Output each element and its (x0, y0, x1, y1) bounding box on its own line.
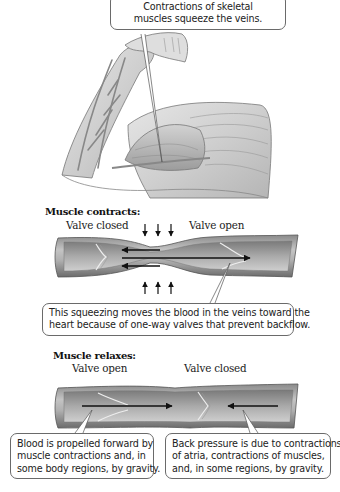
relax-valve-left-label: Valve open (72, 362, 127, 374)
relax-left-callout-line-3: some body regions, by gravity. (17, 463, 147, 475)
contract-callout-line-2: heart because of one-way valves that pre… (49, 319, 287, 331)
squeeze-arrows-up (145, 282, 171, 294)
relax-right-callout-line-2: of atria, contractions of muscles, (172, 450, 324, 462)
vein-diagram-illustration (0, 0, 340, 492)
relax-right-callout-line-3: and, in some regions, by gravity. (172, 463, 324, 475)
contract-valve-right-label: Valve open (189, 219, 244, 231)
contract-heading: Muscle contracts: (45, 206, 140, 217)
relax-right-callout: Back pressure is due to contractions of … (165, 433, 331, 479)
top-callout: Contractions of skeletal muscles squeeze… (110, 0, 286, 30)
contract-callout: This squeezing moves the blood in the ve… (42, 303, 294, 336)
relax-left-callout: Blood is propelled forward by muscle con… (10, 433, 154, 479)
vein-relaxed (55, 384, 298, 428)
contract-valve-left-label: Valve closed (66, 219, 129, 231)
relax-valve-right-label: Valve closed (184, 362, 247, 374)
relax-left-callout-line-2: muscle contractions and, in (17, 450, 147, 462)
contract-callout-line-1: This squeezing moves the blood in the ve… (49, 307, 287, 319)
vein-contracted (55, 235, 298, 277)
squeeze-arrows-down (145, 224, 171, 236)
relax-heading: Muscle relaxes: (53, 350, 136, 361)
top-callout-line-2: muscles squeeze the veins. (117, 13, 279, 25)
top-callout-line-1: Contractions of skeletal (117, 1, 279, 13)
relax-right-callout-line-1: Back pressure is due to contractions (172, 438, 324, 450)
arm-illustration (62, 33, 271, 198)
relax-left-callout-line-1: Blood is propelled forward by (17, 438, 147, 450)
